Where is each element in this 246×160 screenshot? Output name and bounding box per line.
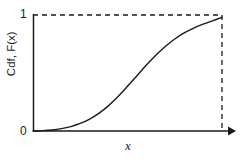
y-axis-title: Cdf, F(x) xyxy=(6,18,18,90)
x-axis-title: x xyxy=(33,139,223,152)
cdf-plot-canvas xyxy=(0,0,246,160)
y-tick-label-bottom: 0 xyxy=(20,125,27,137)
cdf-figure: 1 0 Cdf, F(x) x xyxy=(0,0,246,160)
cdf-curve xyxy=(33,17,222,131)
y-tick-label-top: 1 xyxy=(20,8,27,20)
x-axis-arrowhead-icon xyxy=(228,127,236,136)
